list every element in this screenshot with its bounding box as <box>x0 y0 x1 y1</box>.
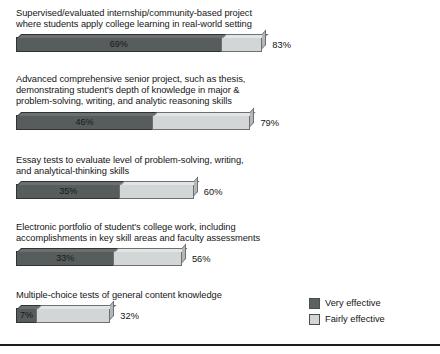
bar-segment-top-face <box>37 305 116 309</box>
bar-total-label-1: 83% <box>272 38 291 53</box>
bar-segment-top-face <box>120 181 199 185</box>
chart-item-group-1: Supervised/evaluated internship/communit… <box>16 8 252 55</box>
bar-segment-side-face <box>182 244 186 263</box>
bar-row-4: 33% 56% <box>16 247 260 269</box>
bar-segment-side-face <box>110 301 114 320</box>
bar-segment-top-face <box>222 34 268 38</box>
bar-segment-fairly-effective <box>152 115 250 130</box>
bar-segment-fairly-effective <box>113 251 182 266</box>
bar-segment-top-face <box>114 248 187 252</box>
bar-value-label-3: 35% <box>16 184 120 199</box>
legend-swatch-very-effective-icon <box>309 298 320 309</box>
bar-caption-3: Essay tests to evaluate level of problem… <box>16 155 244 177</box>
bar-total-label-3: 60% <box>204 185 223 200</box>
chart-item-group-4: Electronic portfolio of student's colleg… <box>16 222 260 269</box>
legend-label-fairly-effective: Fairly effective <box>325 314 385 325</box>
bar-caption-5: Multiple-choice tests of general content… <box>16 290 222 301</box>
bar-segment-side-face <box>262 30 266 49</box>
footer-divider <box>0 344 440 346</box>
bar-caption-1: Supervised/evaluated internship/communit… <box>16 8 252 30</box>
bar-segment-top-face <box>153 112 256 116</box>
bar-row-1: 69% 83% <box>16 33 252 55</box>
legend-item-fairly-effective[interactable]: Fairly effective <box>309 312 385 326</box>
bar-value-label-4: 33% <box>16 251 114 266</box>
bar-value-label-2: 46% <box>16 115 153 130</box>
legend-item-very-effective[interactable]: Very effective <box>309 296 385 310</box>
bar-segment-side-face <box>194 177 198 196</box>
bar-value-label-5: 7% <box>16 308 37 323</box>
bar-total-label-2: 79% <box>260 116 279 131</box>
chart-item-group-5: Multiple-choice tests of general content… <box>16 290 222 326</box>
bar-total-label-5: 32% <box>120 309 139 324</box>
bar-caption-4: Electronic portfolio of student's colleg… <box>16 222 260 244</box>
bar-row-5: 7% 32% <box>16 304 222 326</box>
bar-total-label-4: 56% <box>192 252 211 267</box>
bar-value-label-1: 69% <box>16 37 222 52</box>
bar-row-3: 35% 60% <box>16 180 244 202</box>
bar-segment-fairly-effective <box>221 37 263 52</box>
legend-label-very-effective: Very effective <box>325 298 381 309</box>
chart-item-group-3: Essay tests to evaluate level of problem… <box>16 155 244 202</box>
bar-segment-fairly-effective <box>36 308 111 323</box>
bar-segment-side-face <box>250 107 254 126</box>
legend-swatch-fairly-effective-icon <box>309 314 320 325</box>
bar-segment-fairly-effective <box>119 184 194 199</box>
bar-row-2: 46% 79% <box>16 111 245 133</box>
chart-legend: Very effective Fairly effective <box>309 296 385 328</box>
chart-item-group-2: Advanced comprehensive senior project, s… <box>16 74 245 133</box>
stacked-bar-chart: Supervised/evaluated internship/communit… <box>0 0 440 354</box>
bar-caption-2: Advanced comprehensive senior project, s… <box>16 74 245 108</box>
